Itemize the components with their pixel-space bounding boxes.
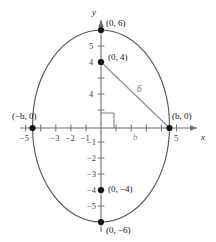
x-axis-label: x — [201, 133, 205, 142]
y-tick-label-5: 5 — [89, 42, 93, 51]
point-focus-upper — [98, 59, 104, 65]
point-top-vertex — [98, 27, 104, 33]
y-tick-label--4: −4 — [87, 186, 96, 195]
y-axis-arrowhead — [98, 20, 104, 27]
y-tick-label--3: −3 — [87, 170, 96, 179]
point-label-top-vertex: (0, 6) — [106, 19, 126, 28]
x-tick-label--3: −3 — [51, 134, 60, 143]
right-angle-marker — [101, 113, 114, 128]
point-left-vertex — [29, 125, 35, 131]
x-tick-label--5: −5 — [20, 134, 29, 143]
x-tick-label-5: 5 — [174, 134, 178, 143]
point-label-focus-upper: (0, 4) — [108, 53, 128, 62]
hypotenuse-segment — [101, 62, 170, 128]
x-axis-arrowhead — [190, 125, 197, 131]
point-label-bottom-vertex: (0, −6) — [106, 226, 131, 235]
point-focus-lower — [98, 187, 104, 193]
y-tick-label-2: 4 — [89, 90, 93, 99]
segment-length-label: 6 — [137, 85, 142, 95]
point-label-right-vertex: (b, 0) — [172, 112, 192, 121]
point-label-focus-lower: (0, −4) — [108, 185, 133, 194]
y-tick-label--2: −2 — [87, 154, 96, 163]
point-label-left-vertex: (−b, 0) — [12, 112, 37, 121]
y-tick-label--5: −5 — [87, 202, 96, 211]
point-bottom-vertex — [98, 219, 104, 225]
y-tick-label-4: 4 — [89, 58, 93, 67]
ellipse-coordinate-diagram: x y −5 −3 −2 −1 5 5 4 4 −1 −2 −3 −4 −5 (… — [0, 0, 216, 242]
y-axis-label: y — [92, 8, 96, 17]
point-right-vertex — [166, 125, 172, 131]
plot-canvas — [0, 0, 216, 242]
b-axis-marker-label: b — [133, 133, 138, 142]
x-tick-label--2: −2 — [66, 134, 75, 143]
y-tick-label--1: −1 — [87, 138, 96, 147]
